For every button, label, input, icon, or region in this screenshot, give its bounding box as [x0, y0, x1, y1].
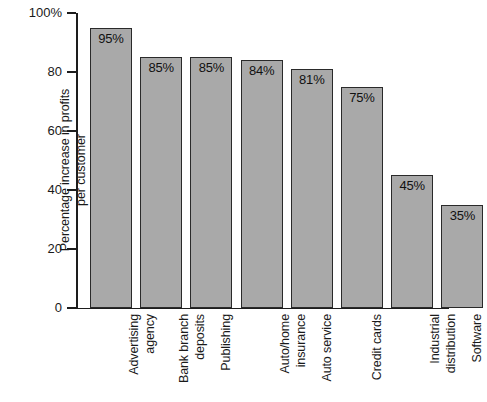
y-tick-label-40: 40	[0, 183, 62, 196]
y-tick-20	[67, 248, 76, 250]
bar: 35%	[441, 205, 483, 308]
y-tick-label-20: 20	[0, 242, 62, 255]
bar: 95%	[90, 28, 132, 308]
x-axis-label: Industrial distribution	[428, 314, 460, 400]
y-tick-label-0: 0	[0, 301, 62, 314]
y-tick-40	[67, 189, 76, 191]
bar-value-label: 95%	[91, 32, 131, 46]
y-tick-label-100: 100%	[0, 6, 62, 19]
bar: 85%	[140, 57, 182, 308]
bar-value-label: 81%	[292, 73, 332, 87]
bar-value-label: 35%	[442, 209, 482, 223]
bar-value-label: 45%	[392, 179, 432, 193]
bar: 75%	[341, 87, 383, 308]
bar: 81%	[291, 69, 333, 308]
y-tick-label-60: 60	[0, 124, 62, 137]
bar-value-label: 84%	[242, 64, 282, 78]
x-axis-label: Software	[470, 314, 487, 400]
bar: 45%	[391, 175, 433, 308]
y-axis-line	[76, 13, 78, 309]
x-axis-label: Publishing	[219, 314, 251, 400]
bar-value-label: 85%	[191, 61, 231, 75]
bar-value-label: 75%	[342, 91, 382, 105]
x-axis-label: Advertising agency	[127, 314, 159, 400]
y-tick-60	[67, 130, 76, 132]
x-axis-label: Bank branch deposits	[177, 314, 209, 400]
bar: 84%	[241, 60, 283, 308]
x-axis-label: Auto/home insurance	[278, 314, 310, 400]
x-axis-label: Auto service	[320, 314, 352, 400]
y-tick-label-80: 80	[0, 65, 62, 78]
bar-value-label: 85%	[141, 61, 181, 75]
x-axis-label: Credit cards	[370, 314, 402, 400]
bar: 85%	[190, 57, 232, 308]
y-tick-80	[67, 71, 76, 73]
y-tick-0	[67, 307, 76, 309]
y-tick-100	[67, 12, 76, 14]
